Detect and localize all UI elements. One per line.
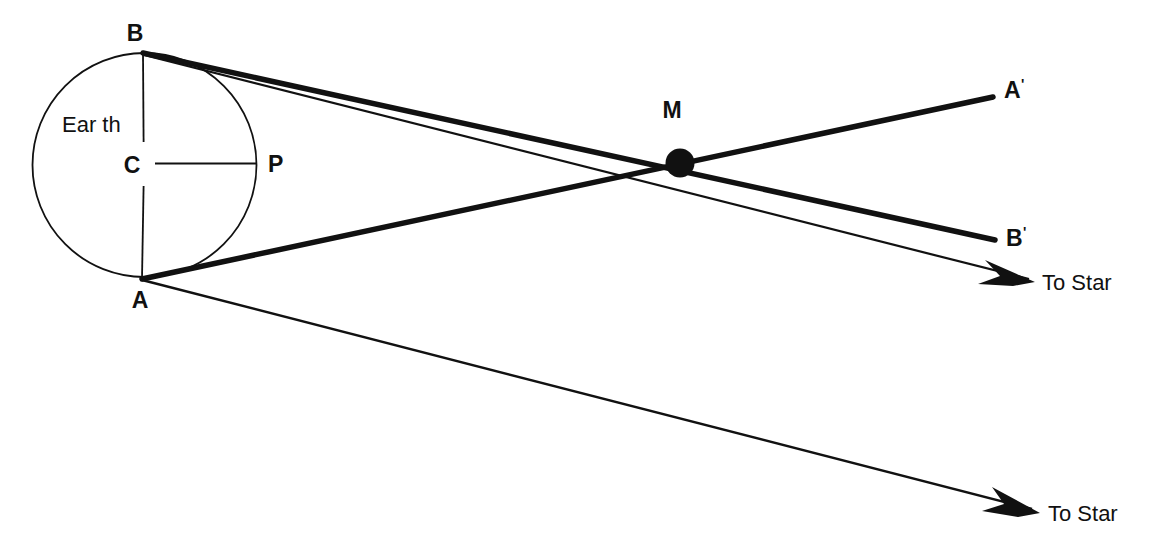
point-p-label: P — [268, 151, 283, 177]
point-b-label: B — [127, 20, 144, 46]
diagram-canvas: Ear th B A C P M A ' B ' To Star To Star — [0, 0, 1156, 551]
moon-dot-m — [666, 149, 695, 178]
earth-circle — [33, 53, 257, 277]
to-star-lower-label: To Star — [1048, 501, 1118, 526]
arrowhead-upper — [978, 260, 1035, 286]
sight-line-a-to-aprime — [142, 97, 993, 279]
diameter-lower-segment — [142, 186, 144, 279]
point-m-label: M — [662, 97, 681, 123]
sight-line-b-to-bprime — [143, 53, 995, 240]
arrowhead-lower — [982, 487, 1040, 517]
point-a-label: A — [132, 287, 149, 313]
b-prime-mark: ' — [1023, 224, 1026, 240]
starline-a-to-star-lower — [142, 280, 1032, 509]
center-c-label: C — [124, 152, 141, 178]
point-a-prime-label: A — [1004, 77, 1021, 103]
to-star-upper-label: To Star — [1042, 270, 1112, 295]
a-prime-mark: ' — [1021, 76, 1024, 92]
earth-label: Ear th — [62, 112, 121, 137]
point-b-prime-label: B — [1006, 225, 1023, 251]
diameter-upper-segment — [143, 53, 144, 142]
parallax-diagram: Ear th B A C P M A ' B ' To Star To Star — [0, 0, 1156, 551]
